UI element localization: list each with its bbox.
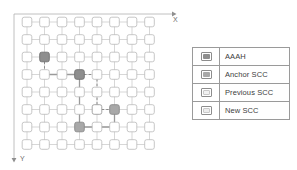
grid-node: [57, 35, 67, 45]
legend-swatch-anchor-scc-icon: [201, 70, 212, 79]
grid-node: [127, 140, 137, 150]
mesh-diagram: X Y: [0, 0, 185, 170]
grid-node: [145, 52, 155, 62]
grid-node: [57, 140, 67, 150]
grid-node: [92, 70, 102, 80]
grid-node: [40, 70, 50, 80]
grid-node: [57, 17, 67, 27]
anchor-scc-node: [75, 70, 85, 80]
grid-node: [92, 35, 102, 45]
legend-label-new-scc: New SCC: [220, 102, 289, 119]
grid-node: [57, 70, 67, 80]
grid-node: [22, 105, 32, 115]
path-solid-group: [45, 75, 115, 128]
grid-node: [145, 70, 155, 80]
grid-node: [40, 17, 50, 27]
grid-node: [92, 140, 102, 150]
grid-node: [75, 140, 85, 150]
grid-node: [75, 35, 85, 45]
grid-node: [22, 17, 32, 27]
grid-node: [145, 105, 155, 115]
legend-swatch-cell: [193, 48, 220, 65]
grid-node: [110, 70, 120, 80]
legend-row-anchor-scc: Anchor SCC: [193, 66, 289, 84]
grid-node: [92, 52, 102, 62]
grid-node: [75, 87, 85, 97]
grid-node: [127, 70, 137, 80]
grid-node: [127, 87, 137, 97]
aaah-node: [40, 52, 50, 62]
legend-label-anchor-scc: Anchor SCC: [220, 66, 289, 83]
grid-node: [40, 87, 50, 97]
new-scc-node: [110, 105, 120, 115]
grid-node: [110, 87, 120, 97]
grid-node: [75, 105, 85, 115]
grid-node: [145, 35, 155, 45]
grid-node: [22, 122, 32, 132]
grid-node: [127, 122, 137, 132]
grid-node: [40, 35, 50, 45]
legend-table: AAAH Anchor SCC Previous SCC New SCC: [192, 47, 290, 120]
legend-swatch-aaah-icon: [201, 52, 212, 61]
grid-node: [145, 140, 155, 150]
grid-node: [75, 17, 85, 27]
scc-node-bottom: [75, 122, 85, 132]
grid-node: [92, 122, 102, 132]
grid-node: [57, 105, 67, 115]
axis-y-arrow: [12, 158, 17, 163]
grid-node: [110, 52, 120, 62]
legend-swatch-previous-scc-icon: [201, 88, 212, 97]
grid-node: [145, 17, 155, 27]
grid-node: [110, 122, 120, 132]
grid-node: [110, 17, 120, 27]
grid-node: [57, 87, 67, 97]
legend-label-aaah: AAAH: [220, 48, 289, 65]
grid-node: [57, 52, 67, 62]
grid-node: [110, 140, 120, 150]
grid-node: [127, 105, 137, 115]
previous-scc-node: [92, 105, 102, 115]
mesh-diagram-svg: X Y: [0, 0, 185, 170]
grid-node: [22, 52, 32, 62]
legend-row-aaah: AAAH: [193, 48, 289, 66]
grid-node: [22, 87, 32, 97]
grid-node: [92, 17, 102, 27]
legend-row-previous-scc: Previous SCC: [193, 84, 289, 102]
grid-node: [40, 122, 50, 132]
legend-swatch-cell: [193, 102, 220, 119]
legend-swatch-new-scc-icon: [201, 106, 212, 115]
grid-node: [57, 122, 67, 132]
grid-node: [40, 140, 50, 150]
grid-node: [22, 35, 32, 45]
grid-node: [110, 35, 120, 45]
axis-y-label: Y: [20, 155, 25, 162]
grid-node: [145, 87, 155, 97]
legend-swatch-cell: [193, 66, 220, 83]
grid-node: [75, 52, 85, 62]
grid-node: [22, 140, 32, 150]
legend-label-previous-scc: Previous SCC: [220, 84, 289, 101]
grid-node: [127, 35, 137, 45]
grid-node: [22, 70, 32, 80]
grid-node: [92, 87, 102, 97]
grid-node: [127, 52, 137, 62]
legend-swatch-cell: [193, 84, 220, 101]
grid-node: [40, 105, 50, 115]
axis-x-label: X: [173, 16, 178, 23]
grid-nodes: [22, 17, 154, 149]
screenshot-root: X Y: [0, 0, 297, 170]
grid-node: [127, 17, 137, 27]
grid-node: [145, 122, 155, 132]
legend-row-new-scc: New SCC: [193, 102, 289, 119]
